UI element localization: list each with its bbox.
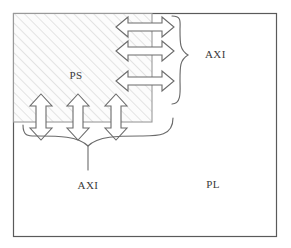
ps-label: PS <box>69 69 82 81</box>
pl-label: PL <box>206 178 220 190</box>
horizontal-arrow-group <box>116 17 174 91</box>
diagram-canvas: PS PL AXI AXI <box>0 0 291 248</box>
axi-label-right: AXI <box>205 48 226 60</box>
vertical-arrow-group <box>30 94 127 140</box>
axi-label-bottom: AXI <box>78 179 99 191</box>
ps-pl-axi-diagram: PS PL AXI AXI <box>0 0 291 248</box>
